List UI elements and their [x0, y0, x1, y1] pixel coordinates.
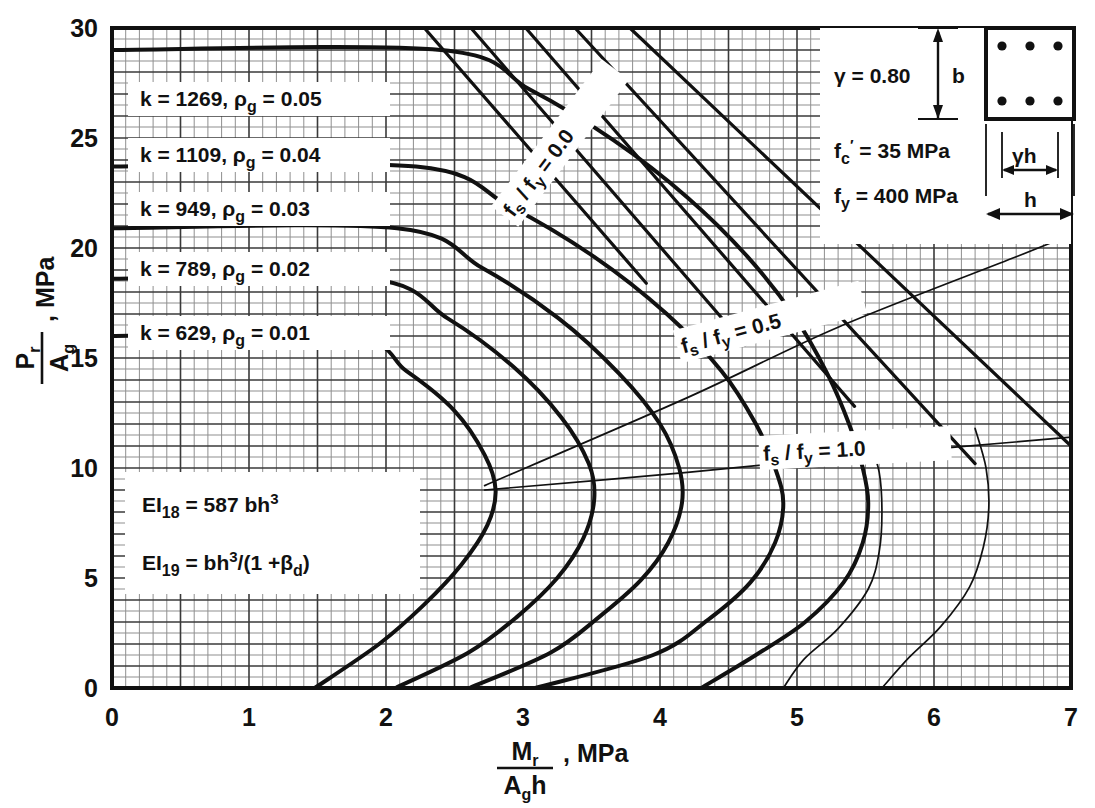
x-tick-label: 0	[105, 703, 119, 731]
y-tick-label: 30	[70, 14, 98, 42]
y-tick-label: 5	[84, 564, 98, 592]
curve-label: k = 1269, ρg = 0.05	[128, 82, 390, 116]
x-tick-label: 6	[927, 703, 941, 731]
x-tick-label: 7	[1064, 703, 1078, 731]
x-tick-label: 4	[653, 703, 667, 731]
gamma-row: γ = 0.80	[834, 64, 911, 87]
y-tick-label: 25	[70, 124, 98, 152]
rebar-dot	[1053, 41, 1062, 50]
y-tick-label: 10	[70, 454, 98, 482]
rebar-dot	[997, 41, 1006, 50]
rebar-dot	[997, 96, 1006, 105]
curve-label: k = 949, ρg = 0.03	[128, 192, 390, 226]
chart-page: 01234567 051015202530 k = 1269, ρg = 0.0…	[0, 0, 1095, 808]
curve-label: k = 789, ρg = 0.02	[128, 252, 390, 286]
b-dimension-label: b	[952, 64, 965, 87]
section-info-box: γ = 0.80 fc′ = 35 MPa fy = 400 MPa b	[820, 28, 1074, 244]
curve-label: k = 1109, ρg = 0.04	[128, 138, 390, 172]
x-tick-label: 1	[242, 703, 256, 731]
y-tick-label: 20	[70, 234, 98, 262]
curve-label: k = 629, ρg = 0.01	[128, 316, 390, 350]
x-tick-label: 5	[790, 703, 804, 731]
interaction-diagram-svg: 01234567 051015202530 k = 1269, ρg = 0.0…	[0, 0, 1095, 808]
gamma-h-label: γh	[1012, 144, 1037, 167]
rebar-dot	[1025, 41, 1034, 50]
y-axis-unit: , MPa	[31, 256, 59, 322]
x-axis-unit: , MPa	[563, 739, 629, 767]
x-tick-label: 2	[379, 703, 393, 731]
rebar-dot	[1025, 96, 1034, 105]
y-tick-label: 0	[84, 674, 98, 702]
ei-box: EI18 = 587 bh3 EI19 = bh3/(1 +βd)	[125, 472, 420, 594]
x-tick-label: 3	[516, 703, 530, 731]
rebar-dot	[1053, 96, 1062, 105]
h-label: h	[1024, 188, 1037, 211]
